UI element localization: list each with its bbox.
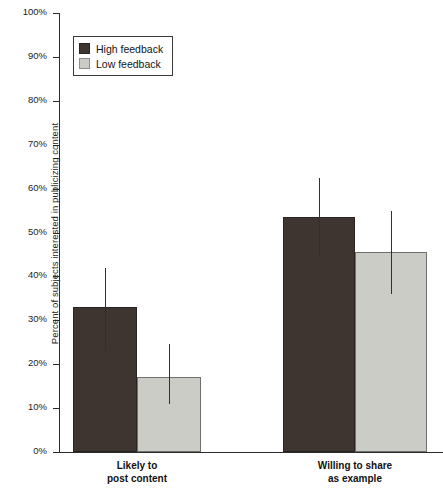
y-tick-label: 50%: [28, 226, 47, 237]
legend-label-low-feedback: Low feedback: [96, 58, 161, 70]
y-tick-mark: [53, 364, 59, 365]
y-tick-mark: [53, 145, 59, 146]
error-bar-low-feedback-group-1: [169, 344, 170, 403]
category-label-line: Willing to share: [283, 459, 427, 472]
category-label-1: Likely topost content: [73, 459, 201, 485]
y-tick-mark: [53, 189, 59, 190]
y-tick-mark: [53, 276, 59, 277]
error-bar-high-feedback-group-1: [105, 268, 106, 351]
legend-swatch-low-feedback: [79, 58, 90, 69]
error-bar-high-feedback-group-2: [319, 178, 320, 257]
y-axis-title: Percent of subjects interested in public…: [49, 84, 60, 384]
error-bar-low-feedback-group-2: [391, 211, 392, 294]
y-tick-label: 80%: [28, 94, 47, 105]
category-label-2: Willing to shareas example: [283, 459, 427, 485]
y-tick-mark: [53, 320, 59, 321]
category-label-line: as example: [283, 472, 427, 485]
y-tick-label: 60%: [28, 182, 47, 193]
y-tick-mark: [53, 13, 59, 14]
y-axis-line: [59, 13, 60, 453]
y-tick-label: 40%: [28, 269, 47, 280]
x-axis-line: [59, 452, 443, 453]
y-tick-mark: [53, 408, 59, 409]
y-tick-mark: [53, 452, 59, 453]
chart-legend: High feedback Low feedback: [73, 36, 173, 76]
y-tick-label: 90%: [28, 50, 47, 61]
category-label-line: post content: [73, 472, 201, 485]
y-tick-mark: [53, 57, 59, 58]
legend-label-high-feedback: High feedback: [96, 43, 163, 55]
y-tick-label: 30%: [28, 313, 47, 324]
y-tick-label: 100%: [23, 6, 47, 17]
category-label-line: Likely to: [73, 459, 201, 472]
legend-item-high-feedback: High feedback: [79, 41, 163, 56]
legend-swatch-high-feedback: [79, 43, 90, 54]
bar-chart: Percent of subjects interested in public…: [0, 0, 443, 490]
y-tick-mark: [53, 101, 59, 102]
y-tick-label: 0%: [33, 445, 47, 456]
y-tick-label: 20%: [28, 357, 47, 368]
legend-item-low-feedback: Low feedback: [79, 56, 163, 71]
y-tick-label: 10%: [28, 401, 47, 412]
y-tick-mark: [53, 233, 59, 234]
y-tick-label: 70%: [28, 138, 47, 149]
